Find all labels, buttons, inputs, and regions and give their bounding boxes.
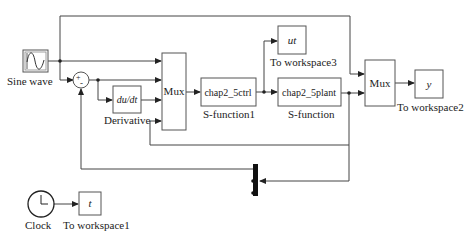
mux2-text: Mux [370,77,391,89]
clock-block[interactable] [28,191,54,217]
sfunction-label: S-function [288,108,335,120]
minus-sign: - [80,78,83,88]
sfunction1-label: S-function1 [203,108,255,120]
to-workspace2-block[interactable]: y [415,70,443,98]
clock-label: Clock [25,219,52,231]
to-workspace1-block[interactable]: t [79,192,101,215]
to-workspace3-block[interactable]: ut [278,26,306,54]
mux2-block[interactable]: Mux [365,60,395,106]
derivative-text: du/dt [117,94,138,105]
mux1-block[interactable]: Mux [162,53,186,130]
to-workspace3-label: To workspace3 [270,56,337,68]
derivative-label: Derivative [104,114,151,126]
to-workspace2-label: To workspace2 [397,101,464,113]
derivative-block[interactable]: du/dt [113,86,141,113]
ut-text: ut [288,34,298,46]
sfunction1-block[interactable]: chap2_5ctrl [201,78,256,106]
diagram-svg: Sine wave + - du/dt Derivative Mux chap2… [0,0,472,237]
ctrl-text: chap2_5ctrl [204,87,251,98]
sine-wave-block[interactable] [23,50,48,72]
sine-wave-label: Sine wave [7,75,53,87]
sum-block[interactable]: + - [73,72,89,88]
sfunction-block[interactable]: chap2_5plant [278,78,341,106]
y-text: y [426,78,432,90]
to-workspace1-label: To workspace1 [63,219,130,231]
plant-text: chap2_5plant [282,87,336,98]
mux1-text: Mux [164,85,185,97]
simulink-canvas: Sine wave + - du/dt Derivative Mux chap2… [0,0,472,237]
